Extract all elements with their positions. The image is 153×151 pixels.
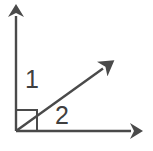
angle-label-1: 1 — [25, 67, 39, 92]
angle-label-2: 2 — [55, 103, 69, 128]
angle-diagram-svg — [0, 0, 153, 151]
geometry-figure: 1 2 — [0, 0, 153, 151]
